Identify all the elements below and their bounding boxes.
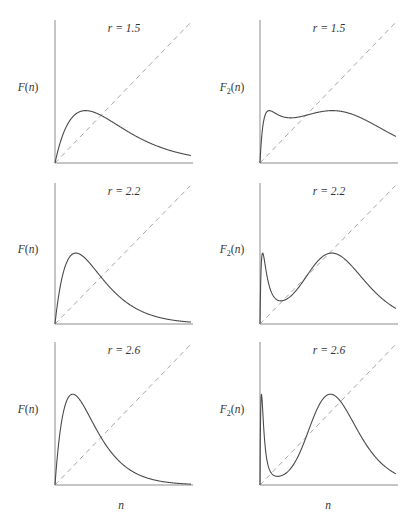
curve-F2 <box>260 111 396 163</box>
y-axis-label: F2(n) <box>219 243 245 258</box>
x-axis-label-left: n <box>118 499 124 511</box>
panel-r2-left: r = 2.2 F(n) <box>17 183 193 324</box>
panel-r3-left: r = 2.6 F(n) <box>17 342 193 485</box>
curve-F <box>55 394 191 485</box>
x-axis-label-right: n <box>325 499 331 511</box>
figure: r = 1.5 F(n) r = 1.5 F2(n) r = 2.2 F(n) … <box>0 0 415 521</box>
panel-r1-left: r = 1.5 F(n) <box>17 20 193 163</box>
panel-title: r = 2.2 <box>108 185 141 197</box>
panel-title: r = 2.6 <box>108 344 141 356</box>
diagonal-line <box>55 23 190 163</box>
curve-F2 <box>260 253 396 324</box>
y-axis-label: F2(n) <box>219 81 245 96</box>
diagonal-line <box>260 186 395 324</box>
curve-F <box>55 111 191 163</box>
diagonal-line <box>55 186 190 324</box>
panel-title: r = 2.6 <box>313 344 346 356</box>
diagonal-line <box>260 345 395 485</box>
panel-title: r = 2.2 <box>313 185 346 197</box>
y-axis-label: F(n) <box>17 243 39 256</box>
y-axis-label: F(n) <box>17 403 39 416</box>
diagonal-line <box>260 23 395 163</box>
panel-r1-right: r = 1.5 F2(n) <box>219 20 398 163</box>
curve-F2 <box>260 394 396 485</box>
y-axis-label: F2(n) <box>219 403 245 418</box>
y-axis-label: F(n) <box>17 81 39 94</box>
panel-title: r = 1.5 <box>313 22 346 34</box>
panel-r3-right: r = 2.6 F2(n) <box>219 342 398 485</box>
panel-title: r = 1.5 <box>108 22 141 34</box>
curve-F <box>55 253 191 324</box>
panel-r2-right: r = 2.2 F2(n) <box>219 183 398 324</box>
